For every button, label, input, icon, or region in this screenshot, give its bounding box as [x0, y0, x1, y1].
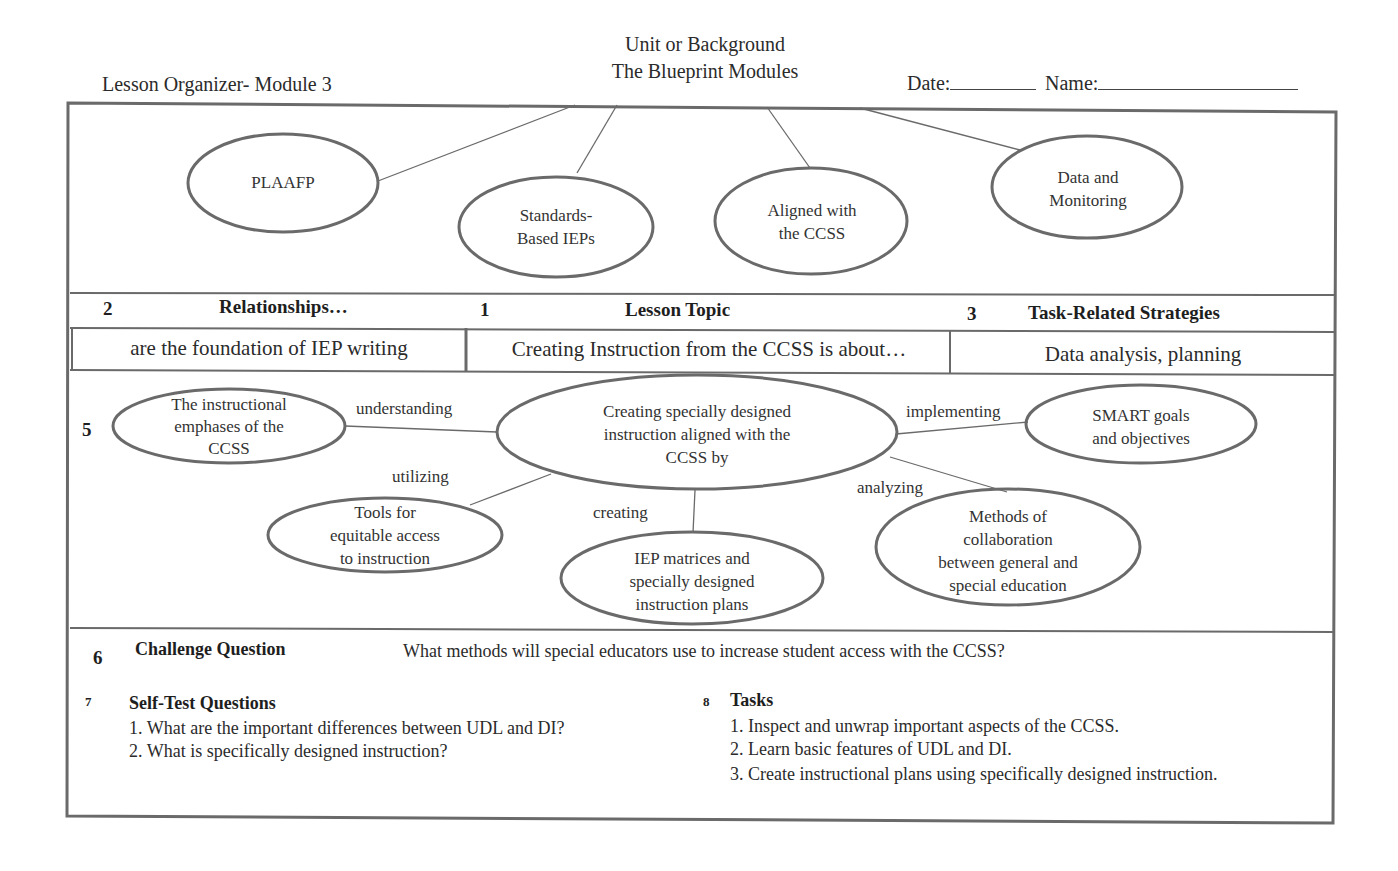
name-field[interactable]: Name:: [1045, 71, 1298, 95]
divider-concept-map: [70, 628, 1334, 632]
concept-map-number: 5: [82, 419, 92, 441]
concept-node-methods-collaboration: Methods of collaboration between general…: [903, 505, 1113, 597]
self-test-item: 1. What are the important differences be…: [129, 718, 565, 739]
challenge-number: 6: [93, 647, 103, 669]
concept-node-tools-equitable-access: Tools for equitable access to instructio…: [295, 501, 475, 570]
concept-node-smart-goals: SMART goals and objectives: [1046, 404, 1236, 450]
lesson-topic-heading: Lesson Topic: [625, 299, 730, 321]
task-item: 2. Learn basic features of UDL and DI.: [730, 739, 1012, 760]
organizer-title: Lesson Organizer- Module 3: [102, 73, 332, 96]
date-label: Date:: [907, 72, 950, 94]
tasks-heading: Tasks: [730, 690, 773, 711]
link-label-creating: creating: [593, 503, 648, 523]
unit-name: The Blueprint Modules: [580, 60, 830, 83]
task-strategies-number: 3: [967, 303, 977, 325]
unit-node-aligned-ccss: Aligned with the CCSS: [726, 199, 898, 245]
link-label-implementing: implementing: [906, 402, 1000, 422]
date-input-line[interactable]: [950, 71, 1036, 90]
concept-node-instructional-emphases: The instructional emphases of the CCSS: [139, 394, 319, 460]
concept-node-iep-matrices: IEP matrices and specially designed inst…: [592, 547, 792, 616]
task-item: 1. Inspect and unwrap important aspects …: [730, 716, 1119, 737]
lesson-topic-number: 1: [480, 299, 490, 321]
concept-center-node: Creating specially designed instruction …: [547, 400, 847, 469]
unit-node-plaafp: PLAAFP: [200, 171, 366, 194]
unit-node-standards-based-ieps: Standards- Based IEPs: [470, 204, 642, 250]
link-label-analyzing: analyzing: [857, 478, 923, 498]
link-label-understanding: understanding: [356, 399, 452, 419]
tasks-number: 8: [703, 694, 710, 710]
name-input-line[interactable]: [1098, 71, 1298, 90]
unit-node-data-monitoring: Data and Monitoring: [1002, 166, 1174, 212]
divider-top: [70, 293, 1334, 295]
task-strategies-value: Data analysis, planning: [952, 342, 1334, 367]
challenge-heading: Challenge Question: [135, 639, 286, 660]
name-label: Name:: [1045, 72, 1098, 94]
self-test-item: 2. What is specifically designed instruc…: [129, 741, 448, 762]
unit-label: Unit or Background: [580, 33, 830, 56]
link-label-utilizing: utilizing: [392, 467, 449, 487]
self-test-number: 7: [85, 694, 92, 710]
self-test-heading: Self-Test Questions: [129, 693, 276, 714]
divider-headings: [70, 328, 1334, 332]
task-strategies-heading: Task-Related Strategies: [1028, 302, 1220, 324]
task-item: 3. Create instructional plans using spec…: [730, 764, 1217, 785]
relationships-heading: Relationships…: [219, 296, 348, 318]
relationships-number: 2: [103, 298, 113, 320]
challenge-question: What methods will special educators use …: [403, 641, 1005, 662]
date-field[interactable]: Date:: [907, 71, 1036, 95]
relationships-value: are the foundation of IEP writing: [72, 336, 466, 361]
lesson-topic-value: Creating Instruction from the CCSS is ab…: [468, 337, 950, 362]
